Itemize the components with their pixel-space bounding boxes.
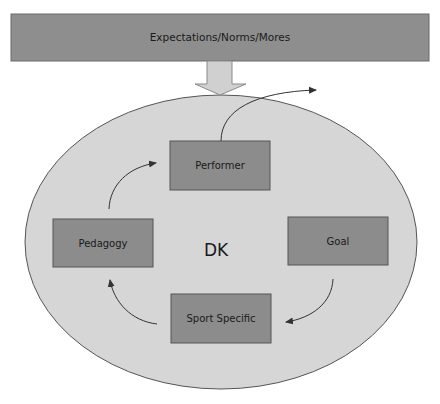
- node-sport-specific: Sport Specific: [171, 294, 271, 343]
- expectations-label: Expectations/Norms/Mores: [150, 31, 291, 43]
- block-down-arrow: [195, 61, 246, 95]
- node-pedagogy-label: Pedagogy: [78, 238, 127, 249]
- node-goal-label: Goal: [327, 236, 350, 247]
- dk-center-label: DK: [204, 240, 229, 260]
- diagram-canvas: Expectations/Norms/Mores Performer Goal …: [0, 0, 440, 404]
- node-performer-label: Performer: [195, 160, 245, 171]
- node-sport-specific-label: Sport Specific: [187, 313, 256, 324]
- expectations-bar: Expectations/Norms/Mores: [11, 14, 429, 61]
- node-pedagogy: Pedagogy: [53, 219, 153, 267]
- node-performer: Performer: [170, 141, 270, 190]
- node-goal: Goal: [288, 217, 388, 265]
